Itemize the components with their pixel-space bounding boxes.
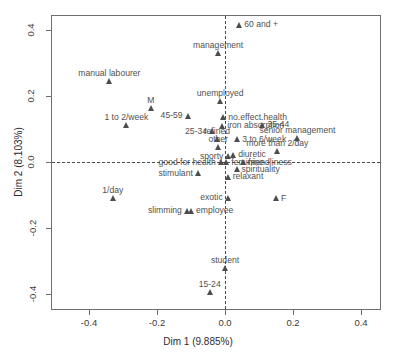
y-tick-mark	[46, 30, 51, 31]
y-axis-title: Dim 2 (8.103%)	[13, 82, 24, 242]
x-tick-mark	[225, 310, 226, 315]
data-point-label: management	[193, 41, 243, 50]
data-point-marker[interactable]	[215, 50, 221, 56]
data-point-marker[interactable]	[123, 122, 129, 128]
data-point-label: other	[208, 135, 228, 144]
data-point-label: exotic	[200, 193, 222, 202]
data-point-marker[interactable]	[110, 195, 116, 201]
x-tick-mark	[361, 310, 362, 315]
x-axis-title: Dim 1 (9.885%)	[0, 336, 396, 347]
y-tick-label: -0.4	[27, 286, 38, 302]
x-tick-mark	[157, 310, 158, 315]
data-point-marker[interactable]	[274, 148, 280, 154]
data-point-marker[interactable]	[234, 136, 240, 142]
x-tick-mark	[89, 310, 90, 315]
y-tick-label: 0.4	[25, 23, 36, 36]
x-tick-mark	[293, 310, 294, 315]
data-point-marker[interactable]	[225, 195, 231, 201]
y-tick-mark	[46, 162, 51, 163]
data-point-label: 60 and +	[244, 20, 278, 29]
zero-reference-line-horizontal	[52, 162, 380, 163]
y-tick-mark	[46, 96, 51, 97]
data-point-label: unemployed	[197, 89, 244, 98]
data-point-label: M	[147, 96, 154, 105]
data-point-marker[interactable]	[273, 195, 279, 201]
data-point-marker[interactable]	[148, 105, 154, 111]
y-tick-label: 0.2	[25, 89, 36, 102]
data-point-label: 1 to 2/week	[104, 113, 148, 122]
data-point-label: student	[211, 256, 239, 265]
data-point-label: more than 2/day	[246, 139, 308, 148]
x-tick-label: 0.2	[286, 317, 299, 328]
data-point-label: 45-59	[161, 111, 183, 120]
data-point-label: slimming	[148, 206, 182, 215]
y-tick-mark	[46, 294, 51, 295]
data-point-label: employee	[196, 206, 233, 215]
data-point-marker[interactable]	[223, 159, 229, 165]
data-point-marker[interactable]	[222, 265, 228, 271]
y-tick-mark	[46, 228, 51, 229]
y-tick-label: -0.2	[27, 220, 38, 236]
data-point-marker[interactable]	[106, 78, 112, 84]
data-point-marker[interactable]	[217, 98, 223, 104]
x-tick-label: -0.4	[81, 317, 97, 328]
data-point-marker[interactable]	[215, 144, 221, 150]
x-tick-label: -0.2	[149, 317, 165, 328]
data-point-marker[interactable]	[207, 289, 213, 295]
y-tick-label: 0.0	[25, 155, 36, 168]
data-point-label: relaxant	[233, 172, 264, 181]
data-point-label: 15-24	[199, 280, 221, 289]
data-point-label: stimulant	[158, 169, 192, 178]
data-point-marker[interactable]	[185, 113, 191, 119]
data-point-label: 1/day	[102, 186, 123, 195]
x-tick-label: 0.4	[354, 317, 367, 328]
data-point-marker[interactable]	[225, 174, 231, 180]
data-point-label: F	[281, 194, 286, 203]
scatter-plot-canvas: -0.4-0.20.00.20.4 -0.4-0.20.00.20.4 60 a…	[0, 0, 396, 358]
data-point-label: manual labourer	[78, 69, 140, 78]
x-tick-label: 0.0	[218, 317, 231, 328]
data-point-marker[interactable]	[195, 170, 201, 176]
data-point-label: good for health	[159, 158, 216, 167]
data-point-marker[interactable]	[188, 208, 194, 214]
data-point-marker[interactable]	[236, 22, 242, 28]
data-point-marker[interactable]	[220, 114, 226, 120]
